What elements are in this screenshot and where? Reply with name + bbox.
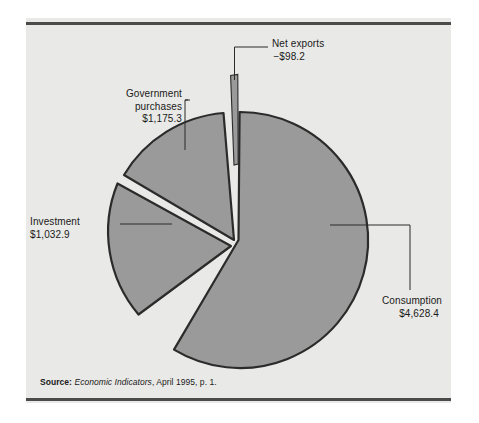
slice-label-consumption-name: Consumption bbox=[382, 295, 462, 308]
slice-label-consumption-value: $4,628.4 bbox=[382, 308, 462, 321]
slice-label-government-purchases: Government purchases $1,175.3 bbox=[100, 88, 182, 126]
figure-pie-chart-gdp-components: Net exports −$98.2 Government purchases … bbox=[0, 0, 479, 423]
slice-label-net-exports-value: −$98.2 bbox=[272, 51, 324, 64]
slice-label-government-purchases-name2: purchases bbox=[100, 101, 182, 114]
source-note-rest: , April 1995, p. 1. bbox=[152, 377, 217, 387]
source-note-publication: Economic Indicators bbox=[74, 377, 151, 387]
slice-label-government-purchases-name: Government bbox=[100, 88, 182, 101]
source-note: Source: Economic Indicators, April 1995,… bbox=[40, 377, 217, 387]
slice-label-investment: Investment $1,032.9 bbox=[30, 216, 118, 241]
slice-label-consumption: Consumption $4,628.4 bbox=[382, 295, 462, 320]
pie-chart-area: Net exports −$98.2 Government purchases … bbox=[0, 0, 479, 423]
pie-chart-svg bbox=[0, 0, 479, 423]
pie-slice-net-exports bbox=[231, 75, 239, 166]
slice-label-investment-name: Investment bbox=[30, 216, 118, 229]
slice-label-net-exports: Net exports −$98.2 bbox=[272, 38, 324, 63]
slice-label-investment-value: $1,032.9 bbox=[30, 229, 118, 242]
leader-line-net-exports bbox=[235, 47, 269, 80]
slice-label-net-exports-name: Net exports bbox=[272, 38, 324, 51]
source-note-prefix: Source: bbox=[40, 377, 72, 387]
slice-label-government-purchases-value: $1,175.3 bbox=[100, 113, 182, 126]
